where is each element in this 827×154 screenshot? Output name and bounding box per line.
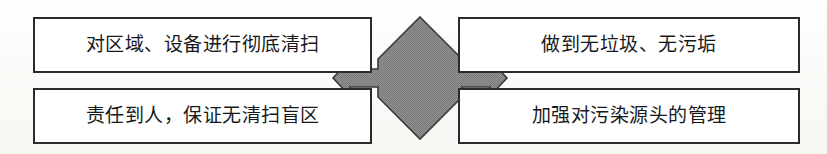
quadrant-label-top-right: 做到无垃圾、无污垢 <box>541 35 717 56</box>
quadrant-label-bottom-right: 加强对污染源头的管理 <box>532 106 727 127</box>
quadrant-box-bottom-right[interactable]: 加强对污染源头的管理 <box>458 88 800 144</box>
diagram-canvas: 对区域、设备进行彻底清扫 做到无垃圾、无污垢 责任到人，保证无清扫盲区 加强对污… <box>0 0 827 154</box>
quadrant-label-bottom-left: 责任到人，保证无清扫盲区 <box>86 106 320 127</box>
quadrant-box-top-left[interactable]: 对区域、设备进行彻底清扫 <box>33 17 372 73</box>
quadrant-box-bottom-left[interactable]: 责任到人，保证无清扫盲区 <box>33 88 372 144</box>
quadrant-label-top-left: 对区域、设备进行彻底清扫 <box>86 35 320 56</box>
quadrant-box-top-right[interactable]: 做到无垃圾、无污垢 <box>458 17 800 73</box>
